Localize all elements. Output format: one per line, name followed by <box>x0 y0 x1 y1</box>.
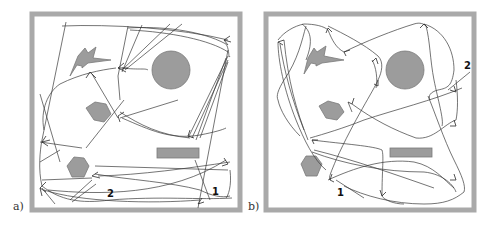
trajectory-label-2: 2 <box>464 60 471 71</box>
panel-a: 1 2 a) <box>0 0 244 226</box>
panel-label-b: b) <box>248 200 259 213</box>
trajectory-label-2: 2 <box>107 188 114 199</box>
panel-a-canvas: 1 2 <box>0 0 244 226</box>
trajectory-label-1: 1 <box>337 187 344 198</box>
panel-b: 1 2 b) <box>244 0 488 226</box>
circle-obstacle <box>386 51 424 89</box>
panel-label-a: a) <box>13 200 24 213</box>
trajectory-label-1: 1 <box>212 186 219 197</box>
rectangle-obstacle <box>390 148 432 157</box>
panel-b-canvas: 1 2 <box>244 0 488 226</box>
rectangle-obstacle <box>157 148 199 158</box>
circle-obstacle <box>152 51 190 89</box>
